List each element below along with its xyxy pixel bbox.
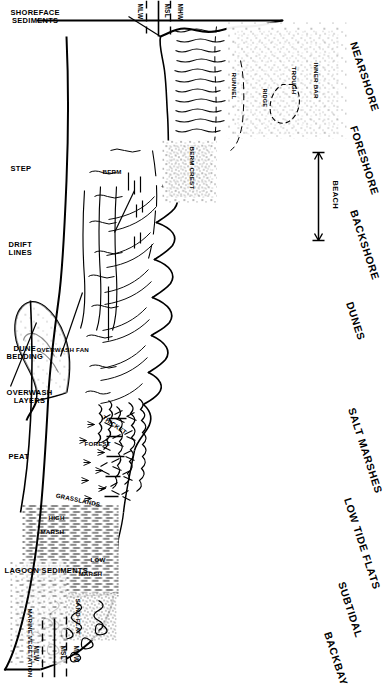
interior-label-berm: BERM bbox=[102, 168, 121, 175]
interior-label-berm-crest: BERM CREST bbox=[188, 146, 195, 189]
interior-label-inner-bar: INNER BAR bbox=[312, 62, 319, 98]
unit-label-step-line1: STEP bbox=[10, 163, 31, 172]
unit-label-lagoon-sediments-line1: LAGOON SEDIMENTS bbox=[4, 565, 88, 574]
unit-label-shoreface-sediments-line2: SEDIMENTS bbox=[11, 15, 57, 24]
unit-label-peat-line1: PEAT bbox=[8, 451, 29, 460]
interior-label-trough: TROUGH bbox=[290, 66, 297, 94]
unit-label-step: STEP bbox=[10, 164, 31, 172]
tide-label-seaward-mlw: MLW bbox=[135, 3, 142, 19]
beach-bracket-lines bbox=[312, 152, 324, 240]
interior-label-forest: FOREST bbox=[84, 440, 110, 447]
unit-label-drift-lines-line2: LINES bbox=[8, 247, 32, 256]
beach-bracket-label: BEACH bbox=[330, 180, 338, 209]
unit-label-overwash-layers-line2: LAYERS bbox=[13, 395, 45, 404]
unit-label-dune-bedding: DUNE BEDDING bbox=[6, 344, 43, 360]
unit-label-drift-lines: DRIFT LINES bbox=[8, 240, 32, 256]
interior-label-marine-vegetation: MARINE VEGETATION bbox=[26, 608, 33, 677]
unit-label-lagoon-sediments: LAGOON SEDIMENTS bbox=[4, 566, 88, 574]
tide-label-seaward-msl: MSL bbox=[162, 3, 169, 17]
tide-label-seaward-mhw: MHW bbox=[175, 3, 182, 20]
interior-label-low-marsh-line1: LOW bbox=[90, 556, 105, 563]
interior-label-high-marsh-line1: HIGH bbox=[48, 514, 64, 521]
tide-label-bayward-mhw: MHW bbox=[71, 645, 78, 662]
interior-label-overwash-fan: OVERWASH FAN bbox=[36, 346, 88, 353]
interior-label-ridge: RIDGE bbox=[260, 88, 266, 107]
unit-label-dune-bedding-line2: BEDDING bbox=[6, 351, 43, 360]
interior-label-high-marsh-line2: MARSH bbox=[40, 528, 64, 535]
interior-label-sand-flat: SAND FLAT bbox=[74, 598, 81, 634]
unit-label-overwash-layers: OVERWASH LAYERS bbox=[6, 388, 52, 404]
unit-label-shoreface-sediments: SHOREFACE SEDIMENTS bbox=[10, 8, 59, 24]
unit-label-peat: PEAT bbox=[8, 452, 29, 460]
interior-label-runnel: RUNNEL bbox=[230, 72, 237, 99]
tide-label-bayward-msl: MSL bbox=[58, 645, 65, 659]
